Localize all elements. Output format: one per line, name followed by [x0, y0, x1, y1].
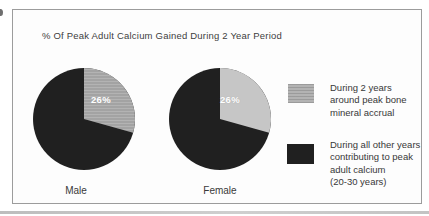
- category-label-female: Female: [190, 185, 250, 196]
- legend-label-dark: During all other years contributing to p…: [330, 139, 420, 189]
- legend-label-light: During 2 years around peak bone mineral …: [330, 82, 407, 119]
- pie-chart-male: [32, 67, 136, 171]
- legend-label-line: mineral accrual: [330, 107, 407, 119]
- scanned-figure-page: % Of Peak Adult Calcium Gained During 2 …: [0, 0, 429, 216]
- pie-male-data-label: 26%: [86, 94, 116, 105]
- legend-swatch-dark: [287, 144, 314, 164]
- legend-swatch-light: [288, 84, 314, 103]
- bottom-edge-scan-artifact: [0, 211, 429, 214]
- legend-label-line: adult calcium: [330, 164, 420, 176]
- legend-label-line: (20-30 years): [330, 176, 420, 188]
- legend-label-line: contributing to peak: [330, 151, 420, 163]
- left-edge-scan-artifact: [0, 9, 3, 16]
- chart-title: % Of Peak Adult Calcium Gained During 2 …: [42, 30, 282, 41]
- legend-label-line: During 2 years: [330, 82, 407, 94]
- pie-chart-female: [168, 67, 272, 171]
- legend-label-line: During all other years: [330, 139, 420, 151]
- legend-label-line: around peak bone: [330, 94, 407, 106]
- category-label-male: Male: [46, 185, 106, 196]
- pie-female-data-label: 26%: [215, 94, 245, 105]
